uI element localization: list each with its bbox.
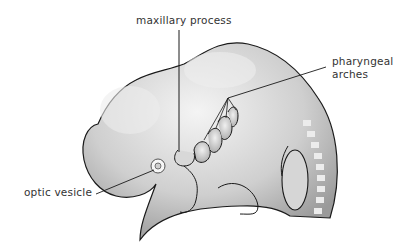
embryo-diagram [0, 0, 408, 251]
optic-vesicle [151, 159, 165, 173]
limb-bud [282, 150, 308, 210]
midbrain-highlight [184, 52, 256, 88]
label-pharyngeal-line1: pharyngeal [332, 55, 393, 68]
forebrain-highlight [100, 86, 160, 134]
label-optic-vesicle: optic vesicle [24, 186, 92, 199]
label-maxillary-process: maxillary process [136, 14, 232, 27]
label-pharyngeal-line2: arches [332, 68, 368, 81]
